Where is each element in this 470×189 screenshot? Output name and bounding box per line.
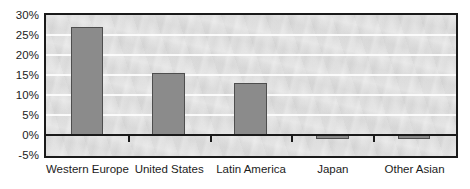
- y-axis-tick-label: 25%: [0, 30, 39, 41]
- y-axis-tick-label: 10%: [0, 90, 39, 101]
- gridline: [46, 34, 456, 36]
- bar: [152, 73, 185, 135]
- y-axis-tick-label: 15%: [0, 70, 39, 81]
- bar: [71, 27, 104, 135]
- x-axis: Western EuropeUnited StatesLatin America…: [44, 162, 458, 184]
- y-axis-tick-label: 0%: [0, 130, 39, 141]
- x-axis-tick-mark: [128, 136, 130, 142]
- gridline: [46, 74, 456, 76]
- y-axis-tick-label: 5%: [0, 110, 39, 121]
- plot-area: [44, 13, 458, 158]
- x-axis-tick-mark: [291, 136, 293, 142]
- y-axis-tick-label: 20%: [0, 50, 39, 61]
- zero-line: [46, 134, 456, 136]
- x-axis-tick-mark: [210, 136, 212, 142]
- y-axis-tick-label: -5%: [0, 150, 39, 161]
- y-axis-tick-label: 30%: [0, 10, 39, 21]
- x-axis-category-label: Other Asian: [355, 162, 470, 176]
- x-axis-tick-mark: [373, 136, 375, 142]
- bar: [234, 83, 267, 135]
- y-axis: 30% 25% 20% 15% 10% 5% 0% -5%: [0, 0, 42, 189]
- bar-chart: 30% 25% 20% 15% 10% 5% 0% -5% Western Eu…: [0, 0, 470, 189]
- gridline: [46, 54, 456, 56]
